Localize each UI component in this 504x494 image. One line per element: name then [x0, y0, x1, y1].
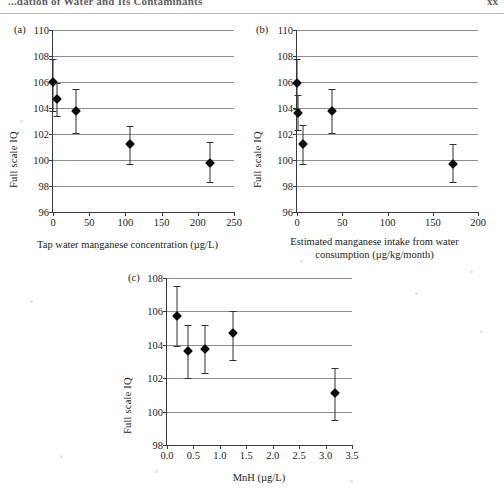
panel-a-ylabel: Full scale IQ [8, 78, 19, 188]
panel-a-xlabel: Tap water manganese concentration (µg/L) [10, 238, 245, 251]
error-bar-cap [185, 325, 192, 326]
panel-c-plot-area: 981001021041061080.00.51.01.52.02.53.03.… [166, 278, 352, 446]
panel-b-ylabel: Full scale IQ [252, 78, 263, 188]
y-axis-tick [49, 56, 53, 57]
gridline [297, 30, 478, 31]
y-axis-tick-label: 96 [283, 207, 294, 218]
x-axis-tick [167, 445, 168, 449]
error-bar-cap [329, 89, 336, 90]
x-axis-tick-label: 250 [226, 217, 242, 228]
y-axis-tick [163, 278, 167, 279]
x-axis-tick [273, 445, 274, 449]
scan-speck [95, 248, 98, 251]
panel-a: (a) Full scale IQ 9698100102104106108110… [0, 20, 252, 250]
error-bar-cap [329, 133, 336, 134]
scan-speck [20, 120, 23, 123]
gridline [297, 186, 478, 187]
scan-speck [350, 480, 353, 483]
y-axis-tick-label: 104 [277, 103, 293, 114]
page-header: ...dation of Water and Its Contaminants … [0, 0, 504, 14]
data-point-marker [172, 311, 182, 321]
x-axis-tick-label: 200 [470, 217, 486, 228]
gridline [167, 345, 352, 346]
y-axis-tick [49, 134, 53, 135]
x-axis-tick-label: 1.5 [240, 450, 253, 461]
error-bar-cap [295, 95, 302, 96]
y-axis-tick-label: 98 [153, 440, 164, 451]
x-axis-tick-label: 0 [50, 217, 55, 228]
scan-speck [470, 270, 473, 273]
y-axis-tick [49, 186, 53, 187]
gridline [297, 56, 478, 57]
gridline [53, 134, 234, 135]
error-bar-cap [50, 59, 57, 60]
x-axis-tick [125, 212, 126, 216]
error-bar-cap [207, 182, 214, 183]
x-axis-tick-label: 100 [118, 217, 134, 228]
x-axis-tick-label: 150 [425, 217, 441, 228]
gridline [167, 278, 352, 279]
y-axis-tick-label: 104 [147, 339, 163, 350]
panel-c-ylabel: Full scale IQ [122, 324, 133, 434]
error-bar-cap [173, 346, 180, 347]
data-point-marker [330, 388, 340, 398]
error-bar-cap [53, 83, 60, 84]
error-bar-cap [126, 164, 133, 165]
error-bar-cap [73, 133, 80, 134]
y-axis-tick [49, 30, 53, 31]
y-axis-tick-label: 108 [147, 273, 163, 284]
data-point-marker [228, 328, 238, 338]
x-axis-tick-label: 2.5 [293, 450, 306, 461]
y-axis-tick-label: 106 [147, 306, 163, 317]
x-axis-tick [246, 445, 247, 449]
x-axis-tick [220, 445, 221, 449]
y-axis-tick-label: 98 [283, 181, 294, 192]
error-bar-cap [331, 368, 338, 369]
x-axis-tick [388, 212, 389, 216]
y-axis-tick-label: 108 [33, 51, 49, 62]
x-axis-tick [297, 212, 298, 216]
x-axis-tick-label: 3.5 [345, 450, 358, 461]
y-axis-tick [293, 134, 297, 135]
error-bar-cap [53, 116, 60, 117]
error-bar-cap [295, 130, 302, 131]
panel-b-plot-area: 9698100102104106108110050100150200 [296, 30, 478, 213]
x-axis-tick [193, 445, 194, 449]
x-axis-tick-label: 2.0 [266, 450, 279, 461]
x-axis-tick [433, 212, 434, 216]
gridline [53, 30, 234, 31]
header-page-number: xx [487, 0, 498, 7]
data-point-marker [293, 108, 303, 118]
error-bar-cap [300, 125, 307, 126]
y-axis-tick-label: 110 [34, 25, 49, 36]
y-axis-tick-label: 106 [277, 77, 293, 88]
gridline [167, 311, 352, 312]
error-bar-cap [449, 182, 456, 183]
panel-a-tag: (a) [14, 24, 26, 35]
x-axis-tick-label: 0.5 [187, 450, 200, 461]
error-bar-cap [230, 311, 237, 312]
error-bar-cap [173, 286, 180, 287]
y-axis-tick [163, 378, 167, 379]
scan-speck [30, 300, 33, 303]
y-axis-tick-label: 104 [33, 103, 49, 114]
gridline [53, 108, 234, 109]
x-axis-tick-label: 0 [294, 217, 299, 228]
header-title: ...dation of Water and Its Contaminants [8, 0, 202, 7]
x-axis-tick-label: 100 [380, 217, 396, 228]
scan-speck [155, 470, 158, 473]
x-axis-tick [53, 212, 54, 216]
x-axis-tick [89, 212, 90, 216]
data-point-marker [298, 139, 308, 149]
gridline [167, 378, 352, 379]
x-axis-tick-label: 50 [337, 217, 348, 228]
data-point-marker [183, 347, 193, 357]
x-axis-tick-label: 1.0 [213, 450, 226, 461]
y-axis-tick-label: 106 [33, 77, 49, 88]
y-axis-tick-label: 108 [277, 51, 293, 62]
x-axis-tick-label: 150 [154, 217, 170, 228]
x-axis-tick [299, 445, 300, 449]
scan-speck [300, 260, 303, 263]
error-bar-cap [73, 89, 80, 90]
y-axis-tick-label: 110 [278, 25, 293, 36]
